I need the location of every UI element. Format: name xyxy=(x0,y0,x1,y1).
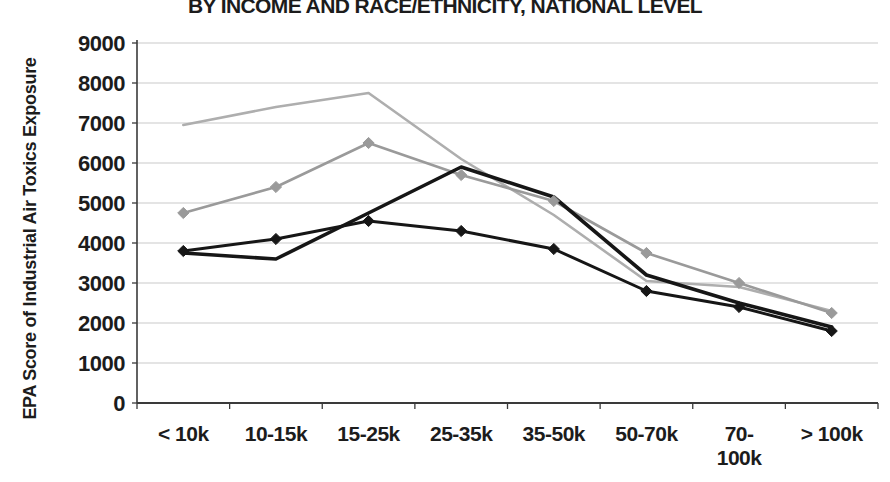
x-tick-label: 15-25k xyxy=(337,422,400,445)
x-tick-label: 10-15k xyxy=(245,422,308,445)
black-line-no-markers xyxy=(183,167,831,327)
gray-line-diamonds-marker xyxy=(641,247,652,258)
gray-line-diamonds-marker xyxy=(363,137,374,148)
gray-line-diamonds-marker xyxy=(456,169,467,180)
gray-line-diamonds-marker xyxy=(270,181,281,192)
gray-line-no-markers xyxy=(183,93,831,311)
black-line-diamonds-marker xyxy=(456,225,467,236)
y-tick-label: 7000 xyxy=(78,111,125,136)
chart-figure: BY INCOME AND RACE/ETHNICITY, NATIONAL L… xyxy=(0,0,890,482)
y-tick-label: 5000 xyxy=(78,191,125,216)
y-tick-label: 9000 xyxy=(78,31,125,56)
gray-line-diamonds-marker xyxy=(178,207,189,218)
x-tick-label: > 100k xyxy=(801,422,864,445)
y-tick-label: 4000 xyxy=(78,231,125,256)
y-tick-label: 1000 xyxy=(78,351,125,376)
x-tick-label: 50-70k xyxy=(615,422,678,445)
x-tick-label: 25-35k xyxy=(430,422,493,445)
black-line-diamonds-marker xyxy=(641,285,652,296)
chart-title: BY INCOME AND RACE/ETHNICITY, NATIONAL L… xyxy=(0,0,890,18)
x-tick-label: 70-100k xyxy=(717,422,763,469)
y-tick-label: 2000 xyxy=(78,311,125,336)
x-tick-label: 35-50k xyxy=(523,422,586,445)
black-line-diamonds-marker xyxy=(363,215,374,226)
y-tick-label: 3000 xyxy=(78,271,125,296)
line-chart-plot: 0100020003000400050006000700080009000< 1… xyxy=(0,0,890,482)
x-tick-label: < 10k xyxy=(158,422,209,445)
y-tick-label: 8000 xyxy=(78,71,125,96)
y-axis-title: EPA Score of Industrial Air Toxics Expos… xyxy=(20,29,41,449)
y-tick-label: 6000 xyxy=(78,151,125,176)
y-tick-label: 0 xyxy=(113,391,125,416)
black-line-diamonds-marker xyxy=(548,243,559,254)
